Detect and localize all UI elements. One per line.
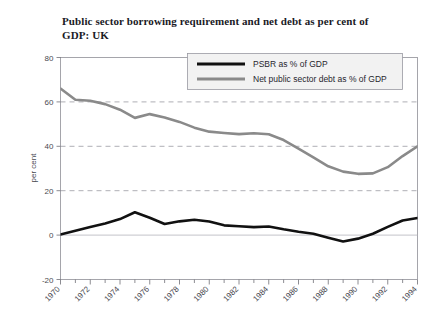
x-tick-label: 1970: [43, 284, 62, 303]
x-tick-label: 1986: [281, 284, 300, 303]
y-tick-label: -20: [42, 276, 54, 285]
x-tick-label: 1976: [132, 284, 151, 303]
y-tick-label: 20: [45, 187, 54, 196]
line-chart-svg: -20020406080 197019721974197619781980198…: [0, 0, 446, 328]
x-tick-label: 1994: [400, 284, 419, 303]
legend-label-0: PSBR as % of GDP: [253, 59, 328, 69]
x-tick-label: 1992: [370, 284, 389, 303]
y-tick-label: 40: [45, 142, 54, 151]
figure-container: Public sector borrowing requirement and …: [0, 0, 446, 328]
x-tick-label: 1990: [340, 284, 359, 303]
chart-legend: PSBR as % of GDPNet public sector debt a…: [188, 54, 403, 90]
y-axis-label: per cent: [29, 153, 38, 183]
x-tick-label: 1972: [73, 284, 92, 303]
plot-frame: [61, 58, 418, 280]
y-axis-ticks: -20020406080: [42, 54, 61, 285]
y-tick-label: 60: [45, 98, 54, 107]
x-tick-label: 1974: [102, 284, 121, 303]
chart-canvas: -20020406080 197019721974197619781980198…: [0, 0, 446, 328]
y-tick-label: 80: [45, 54, 54, 63]
x-tick-label: 1980: [192, 284, 211, 303]
x-tick-label: 1978: [162, 284, 181, 303]
y-tick-label: 0: [49, 231, 54, 240]
x-tick-label: 1982: [221, 284, 240, 303]
x-axis-ticks: 1970197219741976197819801982198419861988…: [43, 280, 419, 304]
legend-label-1: Net public sector debt as % of GDP: [253, 74, 387, 84]
x-tick-label: 1984: [251, 284, 270, 303]
x-tick-label: 1988: [311, 284, 330, 303]
